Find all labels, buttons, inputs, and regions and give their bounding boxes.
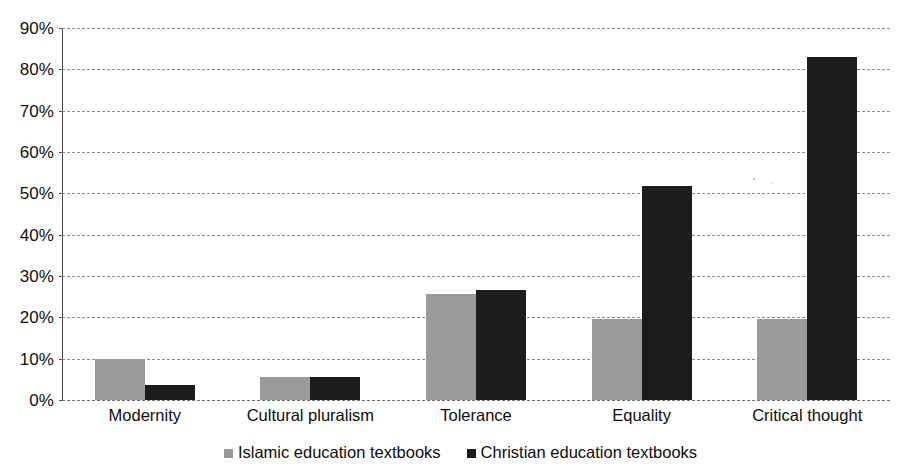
legend-item-label: Islamic education textbooks — [238, 442, 441, 462]
legend-item-label: Christian education textbooks — [481, 442, 697, 462]
bar — [426, 294, 476, 400]
chart-legend: Islamic education textbooksChristian edu… — [0, 440, 921, 464]
y-axis-tick-label: 10% — [2, 350, 54, 367]
y-axis-tick-label: 40% — [2, 226, 54, 243]
bar-group — [757, 28, 857, 400]
bar — [260, 377, 310, 400]
bar — [642, 186, 692, 400]
y-axis-tick-label: 30% — [2, 268, 54, 285]
bar — [310, 377, 360, 400]
y-axis-tick-label: 0% — [2, 392, 54, 409]
bar-group — [95, 28, 195, 400]
bars — [62, 28, 890, 400]
scan-speck — [772, 183, 773, 184]
x-axis-category-label: Tolerance — [440, 404, 512, 426]
y-axis-tick-label: 90% — [2, 20, 54, 37]
bar-group — [426, 28, 526, 400]
x-axis-category-label: Modernity — [109, 404, 181, 426]
y-axis-tick-label: 20% — [2, 309, 54, 326]
x-axis-category-labels: ModernityCultural pluralismToleranceEqua… — [62, 404, 890, 430]
y-axis-tick-label: 60% — [2, 144, 54, 161]
y-axis-tick-labels: 0%10%20%30%40%50%60%70%80%90% — [0, 28, 54, 400]
y-axis-tick-label: 50% — [2, 185, 54, 202]
bar — [592, 319, 642, 400]
bar — [476, 290, 526, 400]
legend-item: Christian education textbooks — [467, 442, 697, 462]
bar — [95, 359, 145, 400]
bar-chart: 0%10%20%30%40%50%60%70%80%90% ModernityC… — [0, 0, 921, 467]
gridline — [62, 400, 890, 401]
bar-group — [260, 28, 360, 400]
plot-area — [62, 28, 890, 400]
legend-item: Islamic education textbooks — [224, 442, 441, 462]
bar — [807, 57, 857, 400]
bar-group — [592, 28, 692, 400]
x-axis-category-label: Cultural pluralism — [247, 404, 374, 426]
x-axis-category-label: Critical thought — [752, 404, 862, 426]
bar — [757, 319, 807, 400]
x-axis-category-label: Equality — [612, 404, 671, 426]
y-axis-tick-label: 80% — [2, 61, 54, 78]
legend-swatch-black — [467, 449, 476, 458]
y-axis-tick-label: 70% — [2, 102, 54, 119]
bar — [145, 385, 195, 400]
scan-speck — [753, 178, 755, 180]
legend-swatch-gray — [224, 449, 233, 458]
